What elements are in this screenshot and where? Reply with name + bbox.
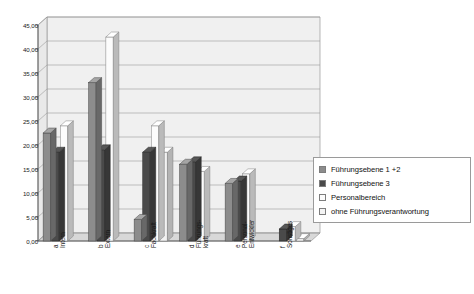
x-category-label-d: dFührungs-kraft bbox=[188, 220, 210, 248]
legend-item-3: ohne Führungsverantwortung bbox=[319, 204, 466, 218]
legend-item-2: Personalbereich bbox=[319, 190, 466, 204]
legend-swatch-icon-3 bbox=[319, 208, 326, 215]
legend-item-0: Führungsebene 1 +2 bbox=[319, 162, 466, 176]
x-axis-category-labels: aInternbExterncFachkraftdFührungs-krafte… bbox=[0, 0, 474, 294]
x-category-label-b: bExtern bbox=[97, 230, 111, 248]
plot-area: 45,0040,0035,0030,0025,0020,0015,0010,00… bbox=[0, 0, 474, 294]
legend-item-1: Führungsebene 3 bbox=[319, 176, 466, 190]
legend-label-1: Führungsebene 3 bbox=[331, 179, 390, 188]
legend-swatch-icon-0 bbox=[319, 166, 326, 173]
x-category-label-a: aIntern bbox=[52, 232, 66, 248]
legend-label-0: Führungsebene 1 +2 bbox=[331, 165, 400, 174]
legend-swatch-icon-1 bbox=[319, 180, 326, 187]
x-category-label-c: cFachkraft bbox=[143, 222, 157, 248]
legend-swatch-icon-2 bbox=[319, 194, 326, 201]
chart-legend: Führungsebene 1 +2Führungsebene 3Persona… bbox=[313, 157, 471, 223]
legend-label-2: Personalbereich bbox=[331, 193, 385, 202]
legend-label-3: ohne Führungsverantwortung bbox=[331, 207, 429, 216]
x-category-label-f: fSonstiges bbox=[279, 221, 293, 248]
bar-chart: 45,0040,0035,0030,0025,0020,0015,0010,00… bbox=[0, 0, 474, 294]
x-category-label-e: ePersonal-Entwickler bbox=[234, 220, 256, 248]
